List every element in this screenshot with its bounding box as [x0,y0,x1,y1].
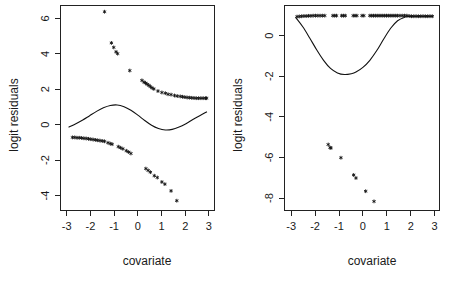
figure-root: 6 4 2 0 -2 -4 -3 -2 -1 [0,0,449,282]
data-point [156,176,159,180]
data-point [160,91,163,95]
y-tick-label: -2 [39,155,51,165]
x-tick-label: -2 [310,220,320,232]
data-point [166,92,169,96]
data-point [127,150,130,154]
smooth-curve-left [69,105,207,130]
x-axis-tick-labels-right: -3 -2 -1 0 1 2 3 [286,220,437,232]
data-point [71,136,74,140]
y-tick-label: 4 [39,51,51,57]
x-tick-label: -3 [286,220,296,232]
data-point [160,180,163,184]
panel-right-svg: 0 -2 -4 -6 -8 -3 -2 -1 0 [225,0,449,282]
x-tick-label: -1 [109,220,119,232]
y-axis-tick-labels-right: 0 -2 -4 -6 -8 [263,33,275,203]
data-point [169,189,172,193]
panel-left-svg: 6 4 2 0 -2 -4 -3 -2 -1 [0,0,225,282]
scatter-points-left [71,10,208,203]
scatter-points-right [295,14,434,204]
data-point [354,176,357,180]
y-tick-label: 0 [263,33,275,39]
x-tick-label: -2 [86,220,96,232]
data-point [129,152,132,156]
data-point [202,96,205,100]
data-point [110,41,113,45]
x-tick-label: 1 [158,220,164,232]
data-point [169,93,172,97]
x-tick-label: 3 [432,220,438,232]
data-point [352,173,355,177]
x-tick-label: 2 [408,220,414,232]
data-point [125,149,128,153]
x-axis-tick-labels-left: -3 -2 -1 0 1 2 3 [62,220,212,232]
data-point [323,14,326,18]
y-tick-label: 6 [39,15,51,21]
data-point [164,91,167,95]
panel-right: 0 -2 -4 -6 -8 -3 -2 -1 0 [225,0,449,282]
smooth-curve-right [296,16,432,74]
x-axis-ticks-right [291,211,434,216]
panel-left: 6 4 2 0 -2 -4 -3 -2 -1 [0,0,225,282]
x-axis-ticks-left [67,211,209,216]
data-point [318,14,321,18]
x-axis-title-right: covariate [348,254,397,268]
y-axis-ticks-right [279,36,284,198]
data-point [103,10,106,14]
x-axis-title-left: covariate [123,254,172,268]
x-tick-label: -3 [62,220,72,232]
y-tick-label: -4 [39,191,51,201]
y-tick-label: -2 [263,71,275,81]
data-point [398,14,401,18]
data-point [364,189,367,193]
data-point [316,14,319,18]
x-tick-label: 1 [384,220,390,232]
x-tick-label: -1 [334,220,344,232]
y-tick-label: -4 [263,112,275,122]
x-tick-label: 3 [206,220,212,232]
plot-frame-left [61,6,215,211]
data-point [156,89,159,93]
y-axis-title-left: logit residuals [7,78,21,151]
data-point [163,182,166,186]
data-point [372,199,375,203]
data-point [314,14,317,18]
data-point [128,69,131,73]
data-point [327,143,330,147]
x-tick-label: 2 [182,220,188,232]
y-tick-label: -6 [263,153,275,163]
data-point [112,45,115,49]
y-tick-label: 0 [39,122,51,128]
y-axis-title-right: logit residuals [231,78,245,151]
y-tick-label: -8 [263,193,275,203]
x-tick-label: 0 [360,220,366,232]
y-tick-label: 2 [39,86,51,92]
data-point [321,14,324,18]
y-axis-ticks-left [55,19,60,196]
x-tick-label: 0 [135,220,141,232]
data-point [401,14,404,18]
data-point [199,96,202,100]
data-point [339,156,342,160]
plot-frame-right [285,6,440,211]
data-point [153,174,156,178]
data-point [197,96,200,100]
data-point [175,199,178,203]
y-axis-tick-labels-left: 6 4 2 0 -2 -4 [39,15,51,200]
